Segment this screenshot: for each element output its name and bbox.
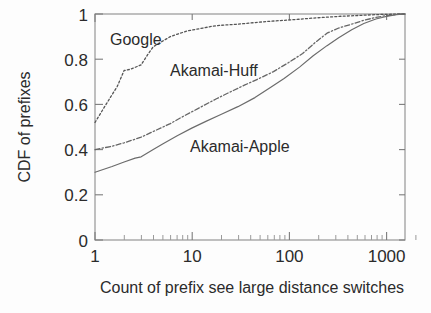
series-label-akamai-huff: Akamai-Huff bbox=[170, 62, 258, 79]
y-axis-title: CDF of prefixes bbox=[16, 71, 33, 182]
y-tick-label-1: 1 bbox=[79, 6, 88, 25]
series-label-akamai-apple: Akamai-Apple bbox=[190, 138, 290, 155]
y-tick-label-0: 0 bbox=[79, 232, 88, 251]
y-tick-label-0.2: 0.2 bbox=[64, 186, 88, 205]
y-tick-label-0.8: 0.8 bbox=[64, 51, 88, 70]
x-tick-label-1000: 1000 bbox=[368, 247, 406, 266]
x-tick-label-100: 100 bbox=[275, 247, 303, 266]
x-tick-label-1: 1 bbox=[90, 247, 99, 266]
x-axis-title: Count of prefix see large distance switc… bbox=[100, 279, 404, 296]
y-tick-label-0.4: 0.4 bbox=[64, 141, 88, 160]
chart-figure: 1 0.8 0.6 0.4 0.2 0 bbox=[0, 0, 431, 313]
x-tick-label-10: 10 bbox=[183, 247, 202, 266]
series-label-google: Google bbox=[110, 31, 162, 48]
y-tick-label-0.6: 0.6 bbox=[64, 96, 88, 115]
cdf-plot: 1 0.8 0.6 0.4 0.2 0 bbox=[0, 0, 431, 313]
